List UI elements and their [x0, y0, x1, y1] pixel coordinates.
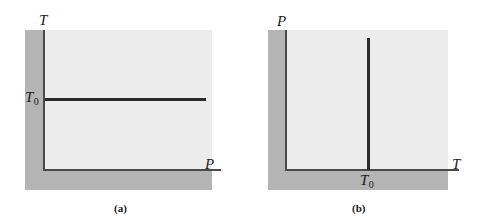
panel-b-y-axis-label: P	[277, 14, 286, 29]
panel-b-x-axis-label: T	[452, 157, 460, 172]
panel-a-tick-base: T	[25, 89, 33, 105]
panel-b-tick-subscript: 0	[369, 179, 374, 190]
panel-a-data-line	[45, 98, 206, 101]
panel-a-x-axis-label: P	[205, 157, 214, 172]
panel-a-caption: (a)	[114, 202, 127, 214]
panel-a-x-axis	[43, 169, 221, 171]
panel-b-y-axis	[285, 30, 287, 171]
panel-b-x-axis	[285, 169, 459, 171]
panel-a-origin-tick-label: T0	[25, 90, 39, 107]
panel-b: P T T0 (b)	[238, 0, 477, 224]
panel-b-origin-tick-label: T0	[360, 173, 374, 190]
panel-b-caption: (b)	[352, 202, 365, 214]
panel-a-tick-subscript: 0	[34, 96, 39, 107]
panel-a-y-axis-label: T	[39, 13, 47, 28]
panel-b-data-line	[367, 38, 370, 170]
panel-a: T P T0 (a)	[0, 0, 239, 224]
figure-two-panel-diagram: T P T0 (a) P T T0 (b)	[0, 0, 477, 224]
panel-b-tick-base: T	[360, 172, 368, 188]
